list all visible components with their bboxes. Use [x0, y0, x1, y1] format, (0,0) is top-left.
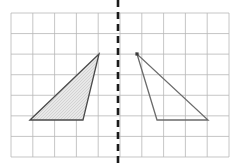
right-triangle-apex-marker	[135, 52, 138, 55]
figure-svg	[0, 0, 234, 166]
geometry-figure-canvas	[0, 0, 234, 166]
